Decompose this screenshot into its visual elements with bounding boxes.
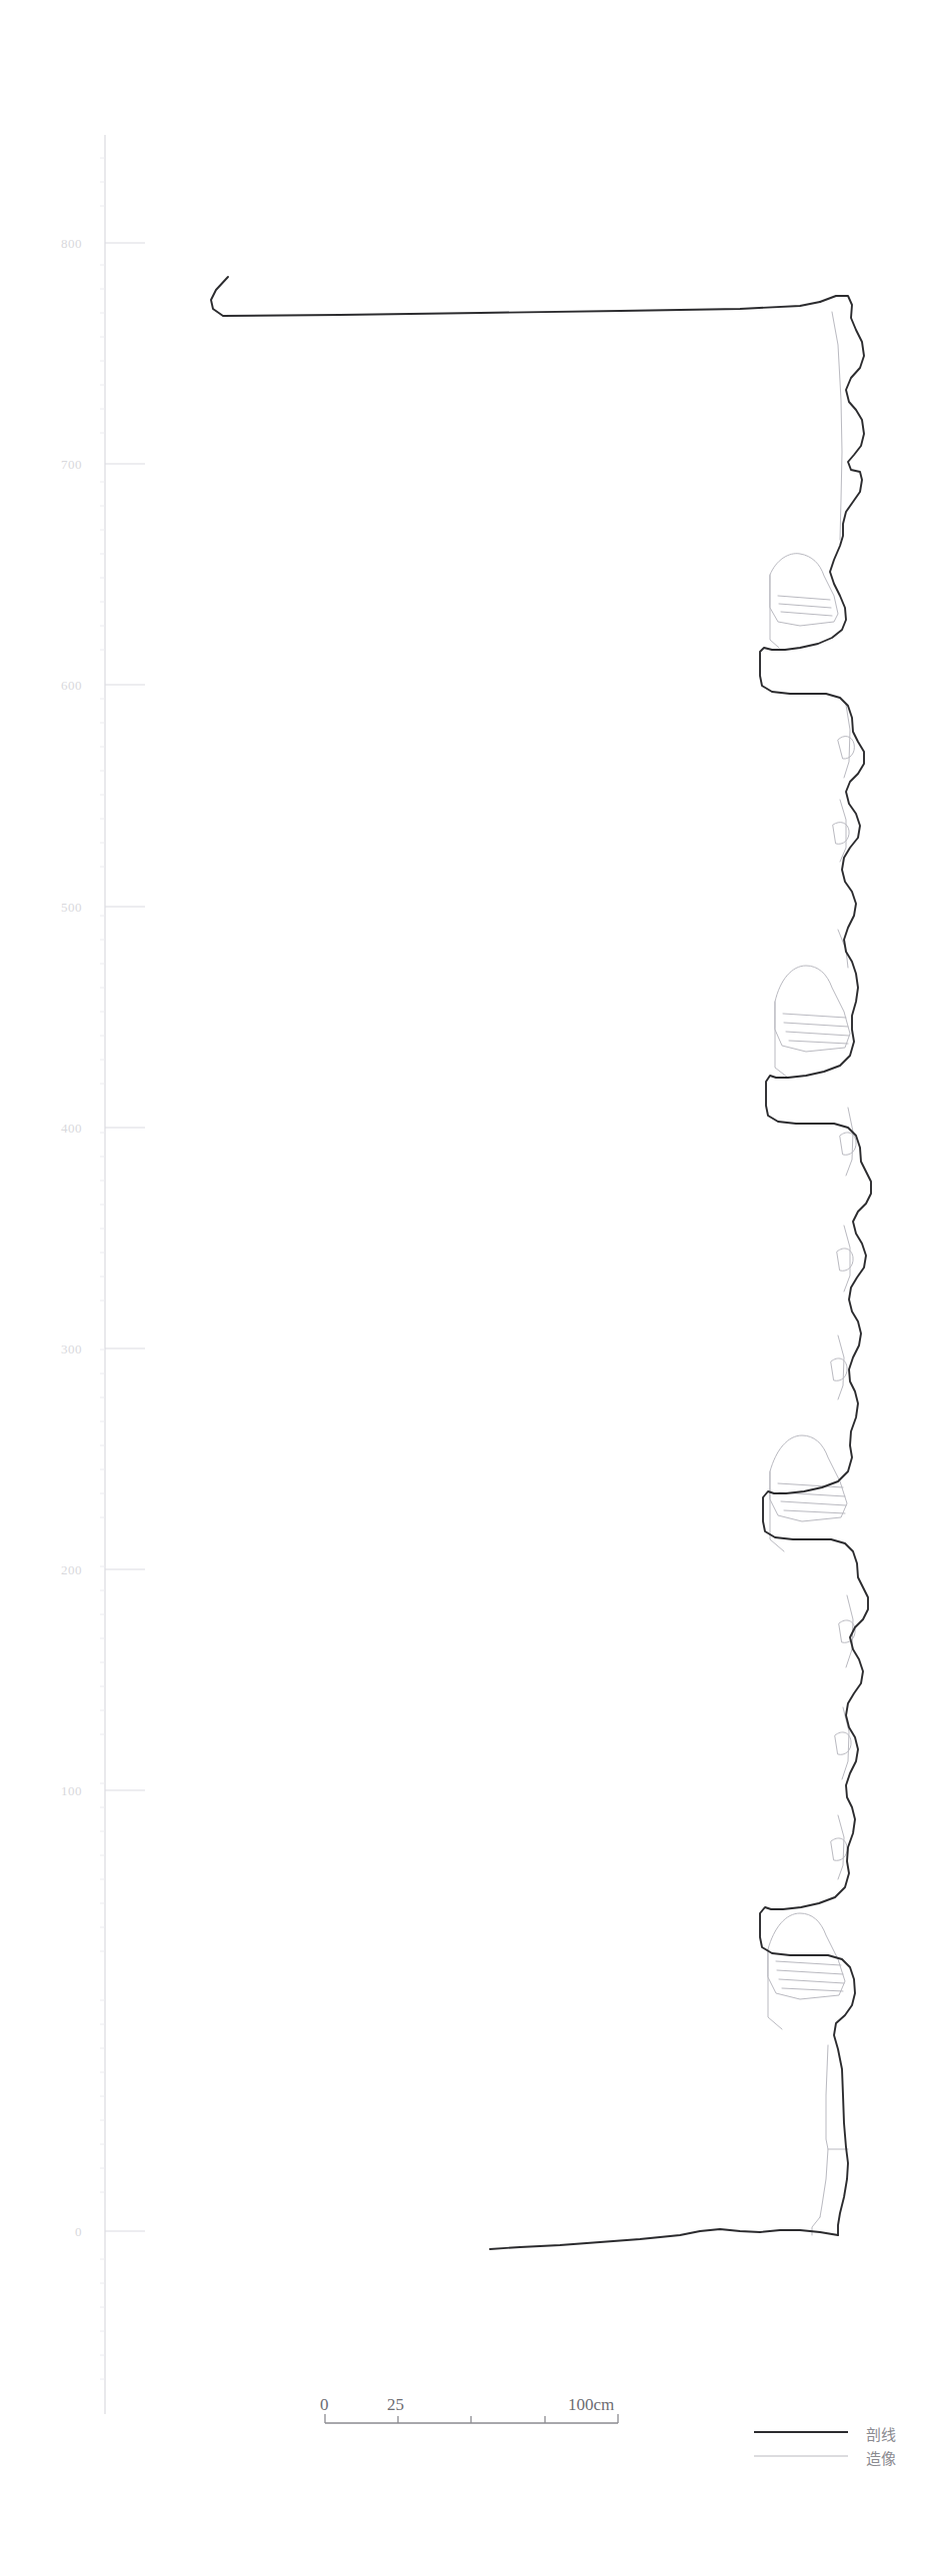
- scale-label-0: 0: [320, 2395, 329, 2415]
- scale-label-100cm: 100cm: [568, 2395, 614, 2415]
- statue-outline-detail-o: [838, 1815, 844, 1879]
- section-line-top-ledge: [211, 277, 820, 316]
- statue-outline-niche-2-head: [838, 930, 848, 968]
- statue-drapery-niche-3: [778, 1483, 846, 1513]
- legend-swatches: [754, 2432, 848, 2456]
- statue-edge-niche-2: [775, 1002, 788, 1078]
- legend-label-statue: 造像: [866, 2447, 896, 2468]
- statue-outline-niche-2: [775, 966, 850, 1052]
- axis-tick-label-600: 600: [22, 678, 82, 694]
- axis-tick-label-800: 800: [22, 236, 82, 252]
- statue-outline-upper-face: [832, 312, 842, 540]
- section-line-right-wall: [760, 296, 871, 2235]
- statue-outline-detail-j: [831, 1358, 847, 1381]
- statue-outline-detail-i: [838, 1335, 844, 1399]
- axis-tick-label-0: 0: [22, 2224, 82, 2240]
- statue-outline-niche-3: [770, 1435, 847, 1521]
- statue-edge-niche-1: [770, 575, 779, 648]
- statue-outline-detail-b: [838, 737, 854, 760]
- elevation-axis: [100, 135, 145, 2414]
- axis-tick-label-300: 300: [22, 1341, 82, 1357]
- axis-tick-label-400: 400: [22, 1121, 82, 1137]
- section-line-basal-floor: [490, 2229, 838, 2249]
- figure-root: 800 700 600 500 400 300 200 100 0 0 25 1…: [0, 0, 944, 2576]
- statue-outline-detail-c: [840, 800, 846, 862]
- axis-tick-label-700: 700: [22, 457, 82, 473]
- statue-outline-pillar-inner: [820, 2045, 828, 2217]
- axis-tick-label-500: 500: [22, 900, 82, 916]
- statue-outline-detail-d: [833, 823, 849, 845]
- legend-label-section-line: 剖线: [866, 2423, 896, 2444]
- statue-outline-detail-m: [842, 1707, 849, 1779]
- axis-major-ticks: [105, 243, 145, 2231]
- axis-tick-label-100: 100: [22, 1783, 82, 1799]
- statue-outline-detail-e: [846, 1108, 853, 1176]
- statue-drapery-niche-1: [778, 596, 832, 616]
- axis-tick-label-200: 200: [22, 1562, 82, 1578]
- statue-outline-detail-h: [837, 1249, 853, 1272]
- statue-drapery-niche-4: [776, 1961, 844, 1991]
- statue-outline-detail-a: [844, 705, 850, 778]
- scale-label-25: 25: [387, 2395, 404, 2415]
- section-drawing-canvas: [0, 0, 944, 2576]
- statue-outline-niche-1: [770, 554, 838, 626]
- statue-outline-detail-g: [844, 1226, 850, 1291]
- statue-outline-detail-f: [840, 1133, 856, 1156]
- statue-outline-detail-p: [831, 1838, 847, 1861]
- scale-bar-graphic: [325, 2414, 618, 2423]
- section-line-group: [211, 277, 871, 2249]
- statue-drapery-niche-2: [783, 1014, 849, 1044]
